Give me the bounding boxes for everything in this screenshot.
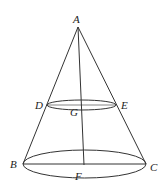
label-f: F <box>74 170 82 182</box>
label-g: G <box>70 106 78 118</box>
edge-ac <box>78 27 146 164</box>
label-a: A <box>72 13 80 25</box>
label-d: D <box>34 99 43 111</box>
axis-af <box>78 27 84 165</box>
label-b: B <box>10 158 17 170</box>
edge-ab <box>23 27 78 164</box>
label-e: E <box>120 99 128 111</box>
cone-diagram: A D E G B C F <box>0 0 167 190</box>
label-c: C <box>150 161 158 173</box>
